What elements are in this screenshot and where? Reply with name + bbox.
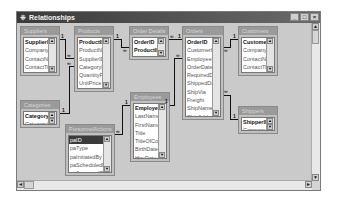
field-item[interactable]: ProductID [133,46,158,54]
field-item[interactable]: Freight [186,96,213,104]
table-header[interactable]: Employees [131,93,169,101]
field-list[interactable]: EmployeeID LastName FirstName Title Titl… [133,103,167,159]
table-header[interactable]: Shippers [239,107,277,115]
field-item[interactable]: ShippedDate [186,79,213,87]
field-item[interactable]: ContactName [242,55,267,63]
field-item-selected[interactable]: paID [69,136,104,144]
field-item[interactable]: QuantityPerUnit [78,71,103,79]
field-list[interactable]: ShipperID CompanyName ▲▼ [241,117,275,131]
field-item[interactable]: CompanyName [24,46,49,54]
resize-grip-icon[interactable] [312,181,320,190]
field-item[interactable]: paApprovedBy [69,169,104,173]
field-list[interactable]: CustomerID CompanyName ContactName Conta… [241,37,275,73]
maximize-button[interactable]: □ [300,13,309,21]
field-item[interactable]: CompanyName [242,126,267,131]
field-item[interactable]: LastName [134,112,159,120]
scroll-down-icon[interactable]: ▼ [103,82,109,88]
relationship-line[interactable] [65,39,66,59]
relationship-line[interactable] [230,95,231,120]
relationship-line[interactable] [169,39,182,40]
table-header[interactable]: Customers [239,27,277,35]
scroll-right-button[interactable]: ► [305,181,312,188]
scroll-up-icon[interactable]: ▲ [158,38,164,44]
field-item[interactable]: UnitPrice [133,55,158,57]
table-categories[interactable]: Categories CategoryID CategoryName ▲▼ [20,100,60,128]
field-item[interactable]: CategoryID [24,112,49,120]
field-list[interactable]: paID paType paInitiatedBy paScheduledDat… [68,135,112,173]
relationship-line[interactable] [230,119,238,120]
scroll-up-icon[interactable]: ▲ [103,38,109,44]
field-item[interactable]: UnitsInStock [78,88,103,89]
scroll-up-icon[interactable]: ▲ [104,136,110,142]
field-item[interactable]: Title [134,129,159,137]
scroll-up-icon[interactable]: ▲ [49,38,55,44]
field-item[interactable]: Address [24,71,49,73]
field-scrollbar[interactable]: ▲▼ [157,38,165,56]
relationship-line[interactable] [174,58,175,106]
table-header[interactable]: Suppliers [21,27,59,35]
field-item[interactable]: paScheduledDate [69,161,104,169]
minimize-button[interactable]: _ [290,13,299,21]
field-item[interactable]: paType [69,144,104,152]
relationship-line[interactable] [69,66,74,67]
field-item[interactable]: paInitiatedBy [69,153,104,161]
field-item[interactable]: TitleOfCourtesy [134,137,159,145]
field-item[interactable]: HireDate [134,154,159,159]
scroll-down-icon[interactable]: ▼ [158,50,164,56]
field-item[interactable]: ContactTitle [242,63,267,71]
field-scrollbar[interactable]: ▲▼ [158,104,166,158]
table-order-details[interactable]: Order Details OrderID ProductID UnitPric… [129,26,169,60]
scroll-down-icon[interactable]: ▼ [267,66,273,72]
scroll-left-button[interactable]: ◄ [17,181,24,188]
relationship-line[interactable] [65,58,74,59]
field-list[interactable]: CategoryID CategoryName ▲▼ [23,111,57,125]
field-item[interactable]: CategoryID [78,63,103,71]
field-list[interactable]: OrderID ProductID UnitPrice ▲▼ [132,37,166,57]
scroll-down-icon[interactable]: ▼ [267,124,273,130]
scroll-up-icon[interactable]: ▲ [267,38,273,44]
table-orders[interactable]: Orders OrderID CustomerID EmployeeID Ord… [182,26,224,120]
field-item[interactable]: ContactName [24,55,49,63]
relationship-line[interactable] [230,39,238,40]
scroll-down-button[interactable]: ▼ [312,174,319,181]
scroll-down-icon[interactable]: ▼ [159,152,165,158]
field-item[interactable]: CustomerID [186,46,213,54]
table-header[interactable]: PersonnelActions [66,125,114,133]
field-scrollbar[interactable]: ▲▼ [266,38,274,72]
vertical-scroll-thumb[interactable] [312,30,319,44]
table-customers[interactable]: Customers CustomerID CompanyName Contact… [238,26,278,76]
table-header[interactable]: Orders [183,27,223,35]
field-item[interactable]: OrderID [133,38,158,46]
field-item[interactable]: ProductID [78,38,103,46]
relationship-line[interactable] [174,58,182,59]
field-item[interactable]: ContactTitle [24,63,49,71]
field-item[interactable]: EmployeeID [186,55,213,63]
field-item[interactable]: Address [242,71,267,73]
table-header[interactable]: Products [75,27,113,35]
field-scrollbar[interactable]: ▲▼ [103,136,111,172]
scroll-down-icon[interactable]: ▼ [104,166,110,172]
field-list[interactable]: SupplierID CompanyName ContactName Conta… [23,37,57,73]
relationship-line[interactable] [69,66,70,114]
field-item[interactable]: CategoryName [24,120,49,125]
field-scrollbar[interactable]: ▲▼ [212,38,220,116]
field-item[interactable]: FirstName [134,121,159,129]
table-employees[interactable]: Employees EmployeeID LastName FirstName … [130,92,170,162]
field-item[interactable]: ShipAddress [186,113,213,117]
field-item[interactable]: RequiredDate [186,71,213,79]
field-item[interactable]: OrderID [186,38,213,46]
field-item[interactable]: ProductName [78,46,103,54]
scroll-down-icon[interactable]: ▼ [49,66,55,72]
scroll-down-icon[interactable]: ▼ [49,118,55,124]
vertical-scrollbar[interactable]: ▲ ▼ [311,23,320,181]
field-item[interactable]: OrderDate [186,63,213,71]
table-suppliers[interactable]: Suppliers SupplierID CompanyName Contact… [20,26,60,76]
relationships-icon[interactable]: ⁜ [20,14,27,21]
field-list[interactable]: OrderID CustomerID EmployeeID OrderDate … [185,37,221,117]
scroll-up-icon[interactable]: ▲ [213,38,219,44]
field-scrollbar[interactable]: ▲▼ [266,118,274,130]
field-item[interactable]: SupplierID [78,55,103,63]
title-bar[interactable]: ⁜ Relationships _ □ × [17,12,320,23]
field-item[interactable]: ShipName [186,104,213,112]
field-scrollbar[interactable]: ▲▼ [48,112,56,124]
